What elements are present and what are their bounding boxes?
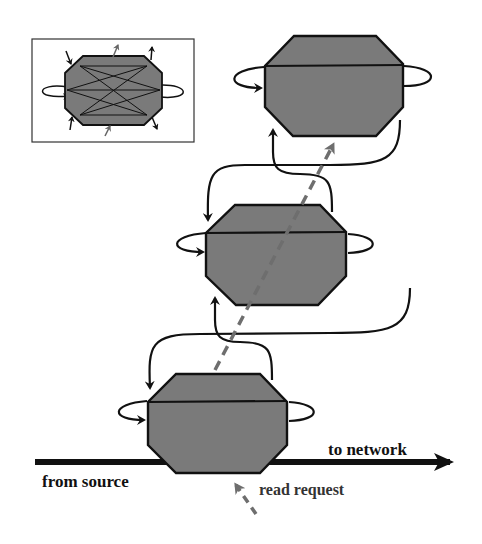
self-loop-top-left — [234, 67, 264, 88]
read-request-arrow-lower — [236, 485, 256, 514]
stacked-blocks-diagram: to network from source read request — [0, 0, 482, 544]
self-loop-middle-left — [177, 233, 206, 252]
inset-arrow-out-tr — [151, 47, 152, 60]
self-loop-bottom-right — [289, 402, 314, 421]
label-from-source: from source — [42, 472, 129, 491]
node-bottom — [119, 374, 314, 473]
block-bottom — [148, 374, 287, 473]
block-top — [265, 36, 403, 136]
label-read-request: read request — [259, 481, 345, 499]
block-top-band — [265, 65, 403, 66]
self-loop-middle-right — [348, 234, 373, 253]
block-middle-band — [206, 232, 346, 233]
block-middle — [206, 205, 346, 305]
node-top — [234, 36, 431, 136]
label-to-network: to network — [328, 440, 407, 459]
link-bottom-right-up — [215, 298, 272, 380]
node-middle — [177, 205, 373, 305]
block-bottom-band — [148, 401, 287, 402]
self-loop-bottom-left — [119, 401, 147, 420]
self-loop-top-right — [404, 66, 431, 86]
inset-diagram — [32, 39, 194, 142]
